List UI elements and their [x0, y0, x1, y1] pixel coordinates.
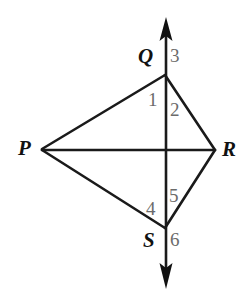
vertex-label-Q: Q: [138, 46, 153, 67]
angle-label-2: 2: [170, 100, 180, 119]
segment-PQ: [42, 75, 165, 149]
angle-label-1: 1: [148, 90, 158, 109]
angle-label-6: 6: [170, 230, 180, 249]
kite-sides: [42, 75, 215, 228]
angle-label-4: 4: [146, 199, 156, 218]
vertex-label-S: S: [143, 230, 155, 251]
angle-label-3: 3: [170, 46, 180, 65]
geometry-figure: P Q R S 1 2 3 4 5 6: [0, 0, 248, 296]
vertex-label-R: R: [222, 139, 236, 160]
angle-label-5: 5: [169, 186, 179, 205]
geometry-canvas: [0, 0, 248, 296]
vertex-label-P: P: [18, 138, 31, 159]
